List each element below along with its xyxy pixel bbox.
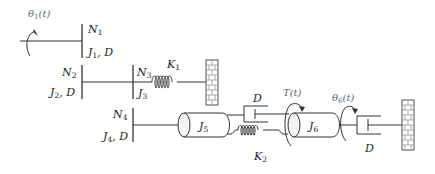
j3-label: J3: [136, 87, 147, 101]
gear-N1-label: N1: [87, 23, 102, 37]
mechanical-system-diagram: θ1(t) N1 J1, D N2 J2, D N3 J3 K1: [0, 0, 435, 174]
gear-N4-label: N4: [112, 108, 128, 122]
j2-d-label: J2, D: [48, 86, 75, 100]
damper-D-mid: [227, 106, 289, 122]
j1-d-label: J1, D: [86, 46, 113, 60]
damper-D-right-label: D: [364, 142, 374, 155]
j4-d-label: J4, D: [101, 130, 128, 144]
spring-K2: [227, 126, 288, 136]
spring-K2-label: K2: [253, 150, 267, 164]
damper-D-right: [340, 116, 402, 134]
theta1-label: θ1(t): [28, 8, 50, 21]
ground-wall-1: [206, 60, 218, 105]
j5-label: J5: [197, 120, 208, 134]
spring-K1-label: K1: [166, 58, 180, 72]
gear-N2-label: N2: [61, 66, 77, 80]
theta6-rotation-arrow: [341, 106, 358, 141]
gear-N3-label: N3: [136, 66, 152, 80]
theta6-label: θ6(t): [332, 92, 354, 105]
ground-wall-2: [402, 100, 414, 150]
damper-D-mid-label: D: [252, 92, 262, 105]
torque-label: T(t): [283, 87, 302, 98]
j6-label: J6: [307, 120, 318, 134]
theta1-rotation-arrow: [27, 29, 38, 56]
